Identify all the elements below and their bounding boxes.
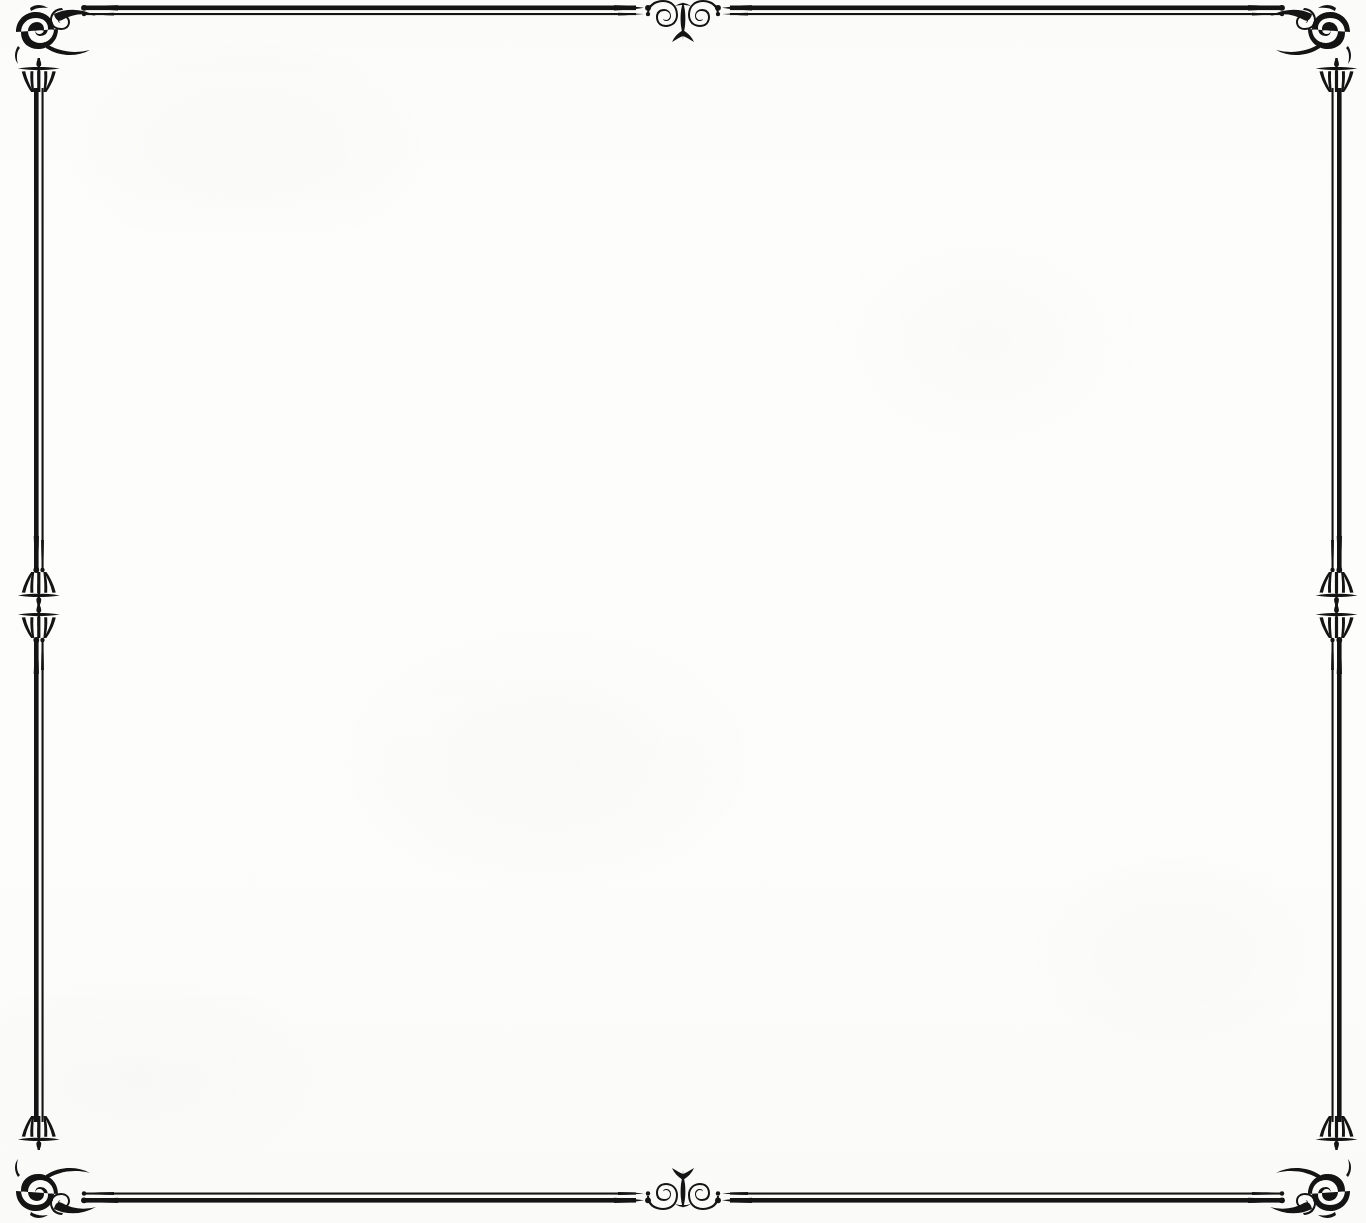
page bbox=[0, 0, 1366, 1223]
cap-right-top bbox=[1316, 58, 1358, 92]
cap-right-bottom bbox=[1316, 1116, 1358, 1150]
cap-right-mid-lower bbox=[1316, 604, 1358, 638]
midpoint-ornament-top bbox=[647, 0, 719, 42]
page-content-area bbox=[60, 40, 1306, 1183]
cap-right-mid-upper bbox=[1316, 572, 1358, 606]
cap-left-mid-lower bbox=[18, 604, 60, 638]
cap-left-bottom bbox=[18, 1116, 60, 1150]
cap-left-top bbox=[18, 58, 60, 92]
cap-left-mid-upper bbox=[18, 572, 60, 606]
